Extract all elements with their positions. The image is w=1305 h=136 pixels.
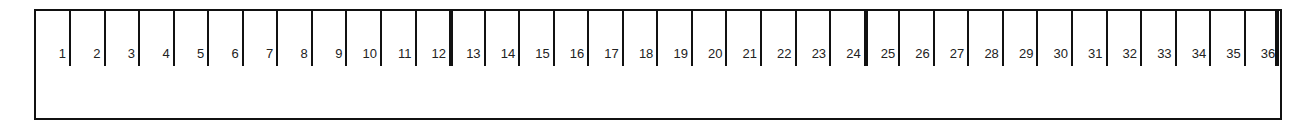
slot-label: 9: [318, 47, 342, 61]
slot-divider: [484, 11, 486, 66]
slot-label: 15: [526, 47, 550, 61]
slot-divider: [1071, 11, 1073, 66]
slot-label: 25: [871, 47, 895, 61]
slot-divider: [69, 11, 71, 66]
slot-divider: [795, 11, 797, 66]
slot-label: 20: [698, 47, 722, 61]
slot-label: 13: [457, 47, 481, 61]
slot-label: 33: [1148, 47, 1172, 61]
slot-divider: [276, 11, 278, 66]
slot-label: 22: [768, 47, 792, 61]
slot-label: 4: [146, 47, 170, 61]
slot-label: 36: [1251, 47, 1275, 61]
slot-label: 35: [1217, 47, 1241, 61]
slot-label: 23: [802, 47, 826, 61]
slot-label: 17: [595, 47, 619, 61]
slot-label: 18: [629, 47, 653, 61]
slot-divider: [1244, 11, 1246, 66]
slot-label: 1: [42, 47, 66, 61]
slot-label: 26: [906, 47, 930, 61]
slot-divider: [656, 11, 658, 66]
slot-label: 6: [215, 47, 239, 61]
slot-divider: [345, 11, 347, 66]
slot-label: 34: [1182, 47, 1206, 61]
slot-label: 32: [1113, 47, 1137, 61]
group-divider-thick: [864, 11, 868, 66]
slot-divider: [933, 11, 935, 66]
slot-label: 10: [353, 47, 377, 61]
slot-label: 30: [1044, 47, 1068, 61]
slot-label: 31: [1079, 47, 1103, 61]
group-divider-thick: [449, 11, 453, 66]
slot-label: 24: [837, 47, 861, 61]
slot-divider: [1175, 11, 1177, 66]
slot-label: 8: [284, 47, 308, 61]
slot-label: 21: [733, 47, 757, 61]
slot-row: 1234567891011121314151617181920212223242…: [36, 11, 1280, 71]
slot-label: 12: [422, 47, 446, 61]
slot-divider: [104, 11, 106, 66]
slot-divider: [760, 11, 762, 66]
slot-label: 16: [560, 47, 584, 61]
slot-divider: [898, 11, 900, 66]
slot-label: 27: [940, 47, 964, 61]
slot-divider: [691, 11, 693, 66]
slot-label: 28: [975, 47, 999, 61]
slot-divider: [1036, 11, 1038, 66]
slot-label: 3: [111, 47, 135, 61]
slot-divider: [311, 11, 313, 66]
slot-label: 14: [491, 47, 515, 61]
slot-divider: [622, 11, 624, 66]
slot-divider: [173, 11, 175, 66]
slot-divider: [553, 11, 555, 66]
slot-divider: [829, 11, 831, 66]
slot-divider: [1106, 11, 1108, 66]
slot-divider: [1140, 11, 1142, 66]
slot-label: 2: [77, 47, 101, 61]
slot-label: 11: [388, 47, 412, 61]
slot-label: 29: [1009, 47, 1033, 61]
slot-label: 5: [180, 47, 204, 61]
slot-strip-frame: 1234567891011121314151617181920212223242…: [34, 9, 1282, 120]
slot-divider: [725, 11, 727, 66]
slot-divider: [380, 11, 382, 66]
slot-divider: [587, 11, 589, 66]
slot-divider: [518, 11, 520, 66]
slot-divider: [207, 11, 209, 66]
slot-divider: [242, 11, 244, 66]
slot-divider: [1002, 11, 1004, 66]
slot-divider: [415, 11, 417, 66]
slot-label: 19: [664, 47, 688, 61]
slot-label: 7: [249, 47, 273, 61]
slot-divider: [138, 11, 140, 66]
slot-divider: [967, 11, 969, 66]
slot-divider: [1209, 11, 1211, 66]
group-divider-thick: [1275, 11, 1279, 66]
